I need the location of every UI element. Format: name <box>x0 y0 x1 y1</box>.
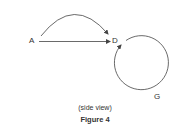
figure-caption: Figure 4 <box>10 116 180 124</box>
point-label-g: G <box>154 93 160 101</box>
arc-path-arrow <box>41 14 108 36</box>
point-label-a: A <box>29 37 34 45</box>
loop-circle-arrow <box>114 36 168 90</box>
figure-subtitle: (side view) <box>10 104 180 111</box>
point-label-d: D <box>112 37 118 45</box>
